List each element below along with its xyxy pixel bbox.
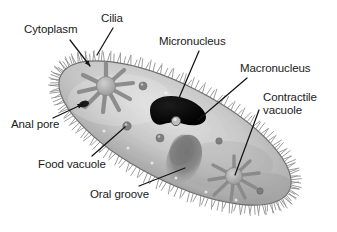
label-macronucleus: Macronucleus (240, 62, 310, 75)
label-food-vacuole: Food vacuole (38, 158, 106, 171)
label-oral-groove: Oral groove (90, 188, 149, 201)
label-contractile-vacuole-line1: Contractile (263, 91, 337, 104)
micronucleus-structure (171, 116, 180, 125)
label-micronucleus: Micronucleus (159, 35, 226, 48)
label-cilia: Cilia (101, 12, 123, 25)
label-cytoplasm: Cytoplasm (24, 23, 77, 36)
label-contractile-vacuole-line2: vacuole (263, 104, 337, 117)
paramecium-diagram: Cytoplasm Cilia Micronucleus Macronucleu… (0, 0, 337, 232)
label-contractile-vacuole: Contractile vacuole (263, 91, 337, 116)
label-anal-pore: Anal pore (11, 118, 59, 131)
